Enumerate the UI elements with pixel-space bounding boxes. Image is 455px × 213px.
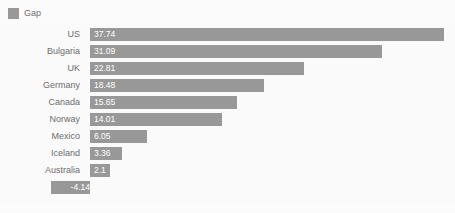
bar-mexico[interactable] <box>90 130 147 143</box>
legend-swatch-icon <box>8 8 19 19</box>
bar-container: 2.1 <box>0 162 455 179</box>
bar-row: Germany18.48 <box>0 77 455 94</box>
plot-area: US37.74Bulgaria31.09UK22.81Germany18.48C… <box>0 24 455 204</box>
bar-container: 15.65 <box>0 94 455 111</box>
bar-row: Brazil-4.14 <box>0 179 455 196</box>
bar-germany[interactable] <box>90 79 264 92</box>
bar-container: 31.09 <box>0 43 455 60</box>
bar-row: Australia2.1 <box>0 162 455 179</box>
bar-row: US37.74 <box>0 26 455 43</box>
bar-australia[interactable] <box>90 164 110 177</box>
bar-container: 14.01 <box>0 111 455 128</box>
bar-container: 3.36 <box>0 145 455 162</box>
bar-chart: Gap US37.74Bulgaria31.09UK22.81Germany18… <box>0 0 455 213</box>
bar-container: 22.81 <box>0 60 455 77</box>
bar-bulgaria[interactable] <box>90 45 382 58</box>
bar-container: 18.48 <box>0 77 455 94</box>
bar-container: -4.14 <box>0 179 455 196</box>
bar-container: 6.05 <box>0 128 455 145</box>
bar-row: Canada15.65 <box>0 94 455 111</box>
bar-uk[interactable] <box>90 62 304 75</box>
legend-item-label: Gap <box>24 8 41 19</box>
bar-row: Iceland3.36 <box>0 145 455 162</box>
bar-brazil[interactable] <box>51 181 90 194</box>
bar-row: Norway14.01 <box>0 111 455 128</box>
bar-iceland[interactable] <box>90 147 122 160</box>
bar-row: Bulgaria31.09 <box>0 43 455 60</box>
bar-row: Mexico6.05 <box>0 128 455 145</box>
bar-norway[interactable] <box>90 113 222 126</box>
chart-legend: Gap <box>8 7 41 19</box>
bar-us[interactable] <box>90 28 444 41</box>
bar-container: 37.74 <box>0 26 455 43</box>
bar-row: UK22.81 <box>0 60 455 77</box>
bar-canada[interactable] <box>90 96 237 109</box>
